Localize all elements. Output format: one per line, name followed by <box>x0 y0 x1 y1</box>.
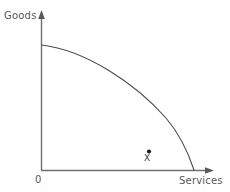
y-axis-arrow-icon <box>38 10 45 19</box>
ppf-diagram: Goods Services 0 X <box>0 0 230 192</box>
origin-label: 0 <box>35 174 42 185</box>
point-x-label: X <box>144 153 150 163</box>
ppf-plot-area <box>0 0 230 192</box>
ppf-curve <box>42 45 195 170</box>
x-axis-arrow-icon <box>205 167 214 174</box>
x-axis-label: Services <box>179 175 223 186</box>
y-axis-label: Goods <box>4 10 37 21</box>
